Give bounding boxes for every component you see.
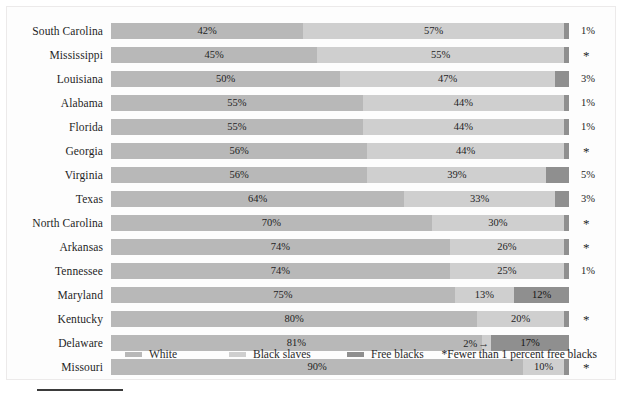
segment-free — [564, 311, 569, 327]
footnote-asterisk: * — [575, 215, 590, 231]
row-label: Kentucky — [7, 307, 103, 331]
value-slaves: 25% — [450, 263, 564, 279]
value-free-outside: 1% — [575, 119, 595, 135]
value-slaves: 30% — [432, 215, 564, 231]
chart-footnote: *Fewer than 1 percent free blacks — [442, 345, 598, 363]
segment-free — [564, 23, 569, 39]
bar-track: 64%33% — [111, 191, 569, 207]
bar-track: 80%20% — [111, 311, 569, 327]
value-white: 55% — [111, 95, 363, 111]
legend-item: Black slaves — [229, 345, 311, 363]
segment-free — [564, 263, 569, 279]
value-slaves: 13% — [455, 287, 515, 303]
bar-track: 55%44% — [111, 119, 569, 135]
value-white: 75% — [111, 287, 455, 303]
value-slaves: 39% — [367, 167, 546, 183]
row-label: Texas — [7, 187, 103, 211]
value-free-outside: 3% — [575, 191, 595, 207]
value-free: 12% — [514, 287, 569, 303]
segment-free — [555, 191, 569, 207]
value-white: 56% — [111, 167, 367, 183]
footnote-asterisk: * — [575, 47, 590, 63]
row-label: Georgia — [7, 139, 103, 163]
chart-rows: South Carolina42%57%1%Mississippi45%55%*… — [7, 19, 615, 379]
legend-swatch-icon — [125, 352, 142, 357]
value-slaves: 44% — [363, 95, 564, 111]
value-slaves: 44% — [367, 143, 564, 159]
value-slaves: 47% — [340, 71, 555, 87]
value-slaves: 26% — [450, 239, 564, 255]
value-slaves: 55% — [317, 47, 564, 63]
chart-row: Georgia56%44%* — [7, 139, 615, 163]
bar-track: 50%47% — [111, 71, 569, 87]
footnote-asterisk: * — [575, 239, 590, 255]
row-label: Virginia — [7, 163, 103, 187]
value-slaves: 57% — [303, 23, 564, 39]
value-white: 74% — [111, 239, 450, 255]
value-white: 64% — [111, 191, 404, 207]
chart-row: Florida55%44%1% — [7, 115, 615, 139]
chart-row: Mississippi45%55%* — [7, 43, 615, 67]
chart-row: South Carolina42%57%1% — [7, 19, 615, 43]
row-label: Mississippi — [7, 43, 103, 67]
value-slaves: 20% — [477, 311, 564, 327]
row-label: Maryland — [7, 283, 103, 307]
legend-label: White — [149, 348, 177, 360]
chart-row: Tennessee74%25%1% — [7, 259, 615, 283]
chart-row: Alabama55%44%1% — [7, 91, 615, 115]
bar-track: 42%57% — [111, 23, 569, 39]
legend-swatch-icon — [347, 352, 364, 357]
segment-free — [564, 95, 569, 111]
row-label: Tennessee — [7, 259, 103, 283]
bar-track: 70%30% — [111, 215, 569, 231]
value-free-outside: 5% — [575, 167, 595, 183]
value-free-outside: 3% — [575, 71, 595, 87]
chart-row: Louisiana50%47%3% — [7, 67, 615, 91]
bar-track: 45%55% — [111, 47, 569, 63]
bar-track: 56%39% — [111, 167, 569, 183]
legend-label: Black slaves — [253, 348, 311, 360]
value-white: 45% — [111, 47, 317, 63]
bar-track: 55%44% — [111, 95, 569, 111]
chart-row: Maryland75%13%12% — [7, 283, 615, 307]
footnote-asterisk: * — [575, 311, 590, 327]
segment-free — [555, 71, 569, 87]
row-label: Florida — [7, 115, 103, 139]
bar-track: 74%25% — [111, 263, 569, 279]
segment-free — [564, 47, 569, 63]
bottom-rule — [37, 389, 123, 391]
value-free-outside: 1% — [575, 95, 595, 111]
chart-frame: South Carolina42%57%1%Mississippi45%55%*… — [6, 6, 616, 380]
value-white: 50% — [111, 71, 340, 87]
value-white: 55% — [111, 119, 363, 135]
value-free-outside: 1% — [575, 23, 595, 39]
row-label: North Carolina — [7, 211, 103, 235]
segment-free — [564, 239, 569, 255]
segment-free — [564, 119, 569, 135]
segment-free — [546, 167, 569, 183]
legend-label: Free blacks — [371, 348, 424, 360]
chart-row: Virginia56%39%5% — [7, 163, 615, 187]
value-white: 56% — [111, 143, 367, 159]
value-white: 80% — [111, 311, 477, 327]
segment-free — [564, 215, 569, 231]
value-free-outside: 1% — [575, 263, 595, 279]
chart-row: Texas64%33%3% — [7, 187, 615, 211]
value-white: 42% — [111, 23, 303, 39]
legend-swatch-icon — [229, 352, 246, 357]
value-slaves: 33% — [404, 191, 555, 207]
chart-row: Arkansas74%26%* — [7, 235, 615, 259]
bar-track: 74%26% — [111, 239, 569, 255]
bar-track: 56%44% — [111, 143, 569, 159]
row-label: South Carolina — [7, 19, 103, 43]
row-label: Arkansas — [7, 235, 103, 259]
value-slaves: 44% — [363, 119, 564, 135]
footnote-asterisk: * — [575, 143, 590, 159]
segment-free — [564, 143, 569, 159]
chart-row: Kentucky80%20%* — [7, 307, 615, 331]
value-white: 74% — [111, 263, 450, 279]
chart-row: North Carolina70%30%* — [7, 211, 615, 235]
value-white: 70% — [111, 215, 432, 231]
legend-item: White — [125, 345, 177, 363]
bar-track: 75%13%12% — [111, 287, 569, 303]
